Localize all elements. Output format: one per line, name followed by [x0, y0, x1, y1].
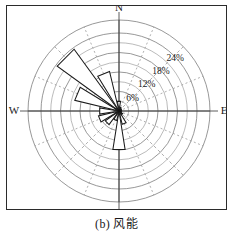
axis-label-west: W — [9, 104, 20, 116]
wind-rose-chart: 6%12%18%24%NESW — [7, 6, 226, 209]
chart-center — [117, 109, 120, 112]
ring-label-12: 12% — [138, 79, 156, 89]
axis-label-north: N — [115, 6, 123, 13]
ring-label-6: 6% — [126, 93, 139, 103]
wind-rose-figure: 6%12%18%24%NESW (b) 风能 — [0, 0, 233, 237]
ring-label-24: 24% — [167, 53, 185, 63]
ring-label-18: 18% — [152, 66, 170, 76]
grid-spoke — [119, 111, 183, 175]
axis-label-east: E — [221, 104, 226, 116]
plot-frame: 6%12%18%24%NESW — [6, 5, 227, 210]
figure-caption: (b) 风能 — [0, 214, 233, 232]
